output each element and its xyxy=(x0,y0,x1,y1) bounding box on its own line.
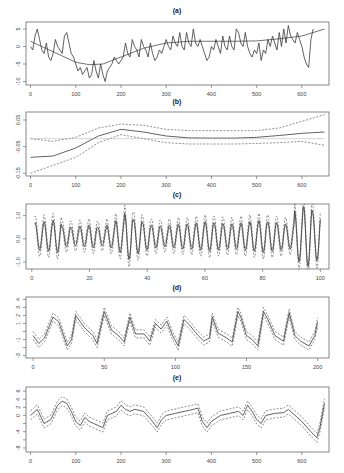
x-tick-label: 150 xyxy=(242,364,251,370)
y-tick-label: -5 xyxy=(15,62,21,67)
y-tick-label: 1 xyxy=(15,322,21,325)
x-tick-label: 300 xyxy=(162,458,171,464)
series-seasonal xyxy=(35,207,321,266)
x-tick-label: 200 xyxy=(116,91,125,97)
panel-c-title: (c) xyxy=(173,191,182,199)
y-tick-label: -8 xyxy=(15,445,21,450)
lower-band xyxy=(33,315,318,350)
x-tick-label: 600 xyxy=(297,182,306,188)
y-tick-label: -1.0 xyxy=(15,257,21,266)
x-tick-label: 100 xyxy=(71,182,80,188)
lower-band xyxy=(35,207,321,275)
y-tick-label: -0.15 xyxy=(15,167,21,180)
x-tick-label: 100 xyxy=(171,364,180,370)
x-tick-label: 200 xyxy=(116,182,125,188)
x-tick-label: 200 xyxy=(116,458,125,464)
x-tick-label: 0 xyxy=(29,91,32,97)
x-tick-label: 500 xyxy=(252,458,261,464)
plot-frame xyxy=(26,112,329,176)
x-tick-label: 500 xyxy=(252,182,261,188)
x-tick-label: 60 xyxy=(202,275,208,281)
y-tick-label: 4 xyxy=(15,298,21,301)
x-tick-label: 600 xyxy=(297,458,306,464)
x-tick-label: 80 xyxy=(260,275,266,281)
y-tick-label: 0 xyxy=(15,414,21,417)
x-tick-label: 0 xyxy=(29,182,32,188)
x-tick-label: 100 xyxy=(316,275,325,281)
series-lower-band xyxy=(31,135,325,174)
x-tick-label: 0 xyxy=(29,458,32,464)
y-tick-label: 0.0 xyxy=(15,235,21,243)
series-estimate xyxy=(31,129,325,157)
y-tick-label: 0 xyxy=(15,45,21,48)
panel-c: (c) 0204060801001.00.0-1.0 xyxy=(15,191,329,281)
y-tick-label: 1.0 xyxy=(15,212,21,220)
y-tick-label: -10 xyxy=(15,78,21,86)
x-tick-label: 200 xyxy=(313,364,322,370)
series-estimate xyxy=(31,401,325,438)
figure: (a) 010020030040050060050-5-10 (b) 01002… xyxy=(0,0,344,473)
x-tick-label: 300 xyxy=(162,91,171,97)
x-tick-label: 0 xyxy=(32,364,35,370)
x-tick-label: 600 xyxy=(297,91,306,97)
x-tick-label: 400 xyxy=(207,458,216,464)
panel-a: (a) 010020030040050060050-5-10 xyxy=(15,7,329,97)
upper-band xyxy=(31,397,325,434)
y-tick-label: 3 xyxy=(15,306,21,309)
y-tick-label: -1 xyxy=(15,337,21,342)
x-tick-label: 100 xyxy=(71,91,80,97)
upper-band xyxy=(33,307,318,342)
plot-area xyxy=(33,307,318,350)
y-tick-label: -4 xyxy=(15,429,21,434)
plot-area xyxy=(31,26,325,82)
series-estimate xyxy=(33,311,318,346)
x-tick-label: 100 xyxy=(71,458,80,464)
panel-b: (b) 01002003004005006000.05-0.05-0.15 xyxy=(15,98,329,188)
lower-band xyxy=(31,406,325,443)
x-tick-label: 40 xyxy=(144,275,150,281)
x-tick-label: 500 xyxy=(252,91,261,97)
x-tick-label: 300 xyxy=(162,182,171,188)
panel-b-title: (b) xyxy=(173,98,182,106)
x-tick-label: 20 xyxy=(86,275,92,281)
x-tick-label: 0 xyxy=(30,275,33,281)
upper-band xyxy=(35,198,321,266)
y-tick-label: 2 xyxy=(15,406,21,409)
plot-area xyxy=(31,397,325,443)
panel-e-title: (e) xyxy=(173,374,182,382)
panel-a-title: (a) xyxy=(173,7,182,15)
plot-area xyxy=(31,115,325,174)
panel-d: (d) 0501001502004321-1-3 xyxy=(15,284,329,370)
plot-area xyxy=(35,198,321,274)
panel-d-title: (d) xyxy=(173,284,182,292)
y-tick-label: 4 xyxy=(15,398,21,401)
x-tick-label: 400 xyxy=(207,91,216,97)
series-observed xyxy=(31,26,314,82)
panel-e: (e) 01002003004005006006420-4-8 xyxy=(15,374,329,464)
x-tick-label: 50 xyxy=(101,364,107,370)
y-tick-label: 2 xyxy=(15,314,21,317)
plot-frame xyxy=(26,297,329,358)
plot-frame xyxy=(26,387,329,452)
y-tick-label: -0.05 xyxy=(15,140,21,153)
y-tick-label: 6 xyxy=(15,390,21,393)
y-tick-label: 0.05 xyxy=(15,115,21,126)
x-tick-label: 400 xyxy=(207,182,216,188)
y-tick-label: -3 xyxy=(15,353,21,358)
y-tick-label: 5 xyxy=(15,27,21,30)
